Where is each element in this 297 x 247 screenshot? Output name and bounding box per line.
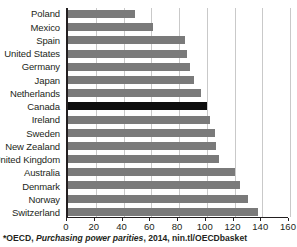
bar-norway	[68, 195, 248, 203]
bar-chart-figure: PolandMexicoSpainUnited StatesGermanyJap…	[0, 0, 297, 247]
category-label-sweden: Sweden	[0, 129, 64, 137]
bar-new-zealand	[68, 142, 216, 150]
x-tick-label-40: 40	[116, 222, 127, 232]
x-tick-label-120: 120	[225, 222, 241, 232]
bar-row	[68, 102, 288, 110]
category-label-norway: Norway	[0, 196, 64, 204]
bar-united-states	[68, 50, 187, 58]
x-tick-label-80: 80	[172, 222, 183, 232]
category-label-poland: Poland	[0, 10, 64, 18]
bar-rows	[68, 8, 288, 217]
bar-row	[68, 129, 288, 137]
category-label-new-zealand: New Zealand	[0, 143, 64, 151]
category-label-japan: Japan	[0, 76, 64, 84]
category-label-germany: Germany	[0, 63, 64, 71]
x-axis: 020406080100120140160	[66, 218, 288, 234]
bar-mexico	[68, 23, 153, 31]
bar-canada	[68, 102, 207, 110]
bar-united-kingdom	[68, 155, 219, 163]
x-tick-label-0: 0	[63, 222, 68, 232]
x-tick-label-100: 100	[197, 222, 213, 232]
plot-area	[66, 8, 288, 218]
bar-row	[68, 116, 288, 124]
bar-netherlands	[68, 89, 201, 97]
bar-japan	[68, 76, 194, 84]
bar-row	[68, 63, 288, 71]
bar-poland	[68, 10, 135, 18]
category-label-united-kingdom: United Kingdom	[0, 156, 64, 164]
x-tick-label-20: 20	[88, 222, 99, 232]
bar-germany	[68, 63, 190, 71]
bar-sweden	[68, 129, 215, 137]
category-label-australia: Australia	[0, 169, 64, 177]
bar-row	[68, 195, 288, 203]
category-label-ireland: Ireland	[0, 116, 64, 124]
category-axis-labels: PolandMexicoSpainUnited StatesGermanyJap…	[0, 8, 64, 218]
x-tick-label-60: 60	[144, 222, 155, 232]
bar-row	[68, 36, 288, 44]
category-label-mexico: Mexico	[0, 23, 64, 31]
bar-ireland	[68, 116, 210, 124]
category-label-switzerland: Switzerland	[0, 209, 64, 217]
bar-row	[68, 76, 288, 84]
category-label-netherlands: Netherlands	[0, 90, 64, 98]
footnote-prefix: *OECD,	[3, 233, 36, 243]
footnote-suffix: , 2014, nin.tl/OECDbasket	[143, 233, 247, 243]
chart-footnote: *OECD, Purchasing power parities, 2014, …	[3, 233, 247, 243]
bar-spain	[68, 36, 185, 44]
bar-row	[68, 155, 288, 163]
category-label-canada: Canada	[0, 103, 64, 111]
bar-row	[68, 23, 288, 31]
footnote-italic-title: Purchasing power parities	[36, 233, 143, 243]
category-label-united-states: United States	[0, 50, 64, 58]
bar-row	[68, 181, 288, 189]
x-tick-label-140: 140	[252, 222, 268, 232]
x-tick-label-160: 160	[280, 222, 296, 232]
bar-australia	[68, 168, 235, 176]
bar-row	[68, 208, 288, 216]
bar-row	[68, 89, 288, 97]
bar-row	[68, 168, 288, 176]
bar-switzerland	[68, 208, 258, 216]
gridline-160	[290, 8, 291, 217]
bar-row	[68, 10, 288, 18]
bar-row	[68, 50, 288, 58]
category-label-denmark: Denmark	[0, 182, 64, 190]
bar-denmark	[68, 181, 240, 189]
bar-row	[68, 142, 288, 150]
category-label-spain: Spain	[0, 37, 64, 45]
